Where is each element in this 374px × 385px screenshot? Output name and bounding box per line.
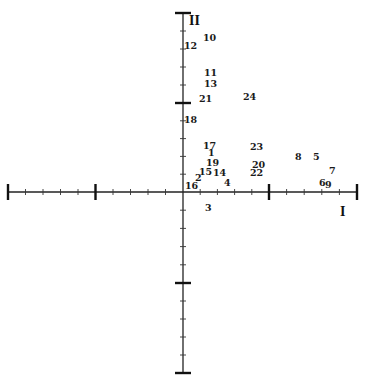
point-label: 8 xyxy=(295,151,302,162)
point-label: 24 xyxy=(243,91,257,102)
point-label: 13 xyxy=(204,78,217,89)
point-label: 12 xyxy=(184,40,197,51)
point-label: 5 xyxy=(313,151,320,162)
point-labels: 101211132124181712319201514222164385769 xyxy=(184,32,336,213)
point-label: 11 xyxy=(204,67,217,78)
point-label: 9 xyxy=(325,179,332,190)
scatter-plot: II I 10121113212418171231920151422216438… xyxy=(0,0,374,385)
point-label: 16 xyxy=(185,180,199,191)
point-label: 21 xyxy=(199,93,212,104)
point-label: 4 xyxy=(224,177,231,188)
point-label: 18 xyxy=(184,114,198,125)
point-label: 3 xyxy=(205,202,212,213)
point-label: 22 xyxy=(250,167,263,178)
y-axis-label: II xyxy=(189,13,200,28)
x-axis-label: I xyxy=(340,204,345,219)
point-label: 23 xyxy=(250,141,263,152)
point-label: 10 xyxy=(203,32,217,43)
point-label: 7 xyxy=(329,165,336,176)
